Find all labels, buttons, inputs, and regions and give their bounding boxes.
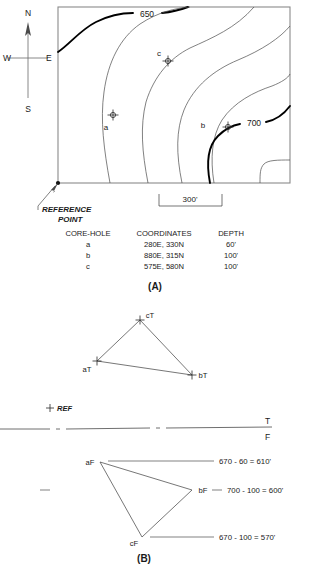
top-view-vertex-label-cT: cT	[146, 311, 155, 320]
table-header-coordinates: COORDINATES	[136, 229, 191, 238]
table-cell-depth: 100'	[224, 262, 239, 271]
core-hole-table: CORE-HOLE COORDINATES DEPTH a 280E, 330N…	[65, 229, 243, 271]
table-cell-hole: b	[86, 251, 90, 260]
top-view-triangle-outline	[97, 320, 192, 375]
table-row: a 280E, 330N 60'	[86, 240, 237, 249]
table-header-depth: DEPTH	[218, 229, 244, 238]
index-contour-650-west	[58, 13, 133, 52]
contour-label-650: 650	[140, 9, 154, 19]
contour-label-700: 700	[247, 118, 261, 128]
front-view-vertex-label-cF: cF	[130, 539, 139, 548]
reference-point-label-line1: REFERENCE	[42, 205, 92, 214]
table-cell-coordinates: 575E, 580N	[144, 262, 184, 271]
reference-point-arrowhead-icon	[51, 183, 58, 193]
table-cell-hole: c	[86, 262, 90, 271]
ref-marker-label: REF	[57, 404, 73, 413]
table-cell-coordinates: 880E, 315N	[144, 251, 184, 260]
fold-line-label-front: F	[265, 432, 270, 442]
contour-line-5	[260, 160, 290, 183]
fold-line-label-top: T	[265, 416, 270, 426]
contour-lines	[58, 7, 290, 183]
index-contour-700-east	[266, 106, 290, 122]
compass-label-west: W	[3, 53, 11, 63]
core-hole-symbol-a	[108, 110, 119, 121]
elevation-label-b: 700 - 100 = 600'	[227, 486, 284, 495]
top-view-vertex-label-bT: bT	[199, 371, 208, 380]
compass-label-south: S	[25, 104, 31, 114]
map-frame	[58, 7, 290, 183]
contour-line-4	[212, 74, 290, 183]
contour-line-1	[102, 7, 190, 183]
compass-rose: N S W E	[3, 8, 52, 114]
top-view-triangle	[93, 316, 197, 380]
panel-b-label: (B)	[137, 553, 151, 564]
reference-point-label-line2: POINT	[58, 215, 84, 224]
structural-geology-figure: N S W E 650 700	[0, 0, 309, 576]
core-hole-label-b: b	[201, 121, 206, 130]
contour-line-3	[178, 26, 290, 183]
core-hole-label-c: c	[157, 49, 161, 58]
core-hole-symbols	[108, 56, 234, 133]
scale-bar-label: 300'	[183, 195, 198, 204]
fold-line	[0, 427, 272, 429]
top-view-vertex-label-aT: aT	[83, 365, 92, 374]
core-hole-label-a: a	[104, 123, 109, 132]
table-cell-hole: a	[86, 240, 91, 249]
front-view-triangle	[100, 462, 192, 537]
table-cell-depth: 100'	[224, 251, 239, 260]
compass-label-north: N	[25, 8, 31, 18]
core-hole-symbol-c	[163, 56, 174, 67]
table-row: b 880E, 315N 100'	[86, 251, 239, 260]
elevation-label-a: 670 - 60 = 610'	[219, 457, 272, 466]
ref-marker	[46, 404, 54, 412]
contour-line-2	[142, 7, 254, 183]
elevation-label-c: 670 - 100 = 570'	[219, 533, 276, 542]
table-cell-coordinates: 280E, 330N	[144, 240, 184, 249]
elevation-projection-lines	[40, 461, 222, 537]
table-cell-depth: 60'	[226, 240, 236, 249]
front-view-vertex-label-aF: aF	[86, 458, 95, 467]
panel-a-label: (A)	[148, 281, 162, 292]
table-row: c 575E, 580N 100'	[86, 262, 239, 271]
compass-label-east: E	[46, 53, 52, 63]
front-view-vertex-label-bF: bF	[199, 486, 208, 495]
table-header-core-hole: CORE-HOLE	[65, 229, 110, 238]
front-view-triangle-outline	[100, 462, 192, 537]
